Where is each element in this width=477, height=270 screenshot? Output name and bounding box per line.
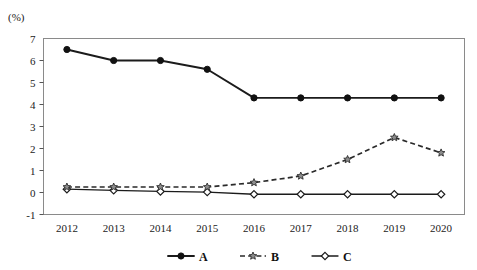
series-group	[63, 46, 445, 198]
series-a-marker	[438, 95, 444, 101]
y-axis-tick-labels: 76543210-1	[26, 33, 36, 221]
y-axis-ticks	[40, 61, 44, 215]
legend-swatch-marker-b	[249, 252, 257, 259]
x-tick-label: 2019	[383, 222, 406, 234]
y-tick-label: 4	[30, 99, 36, 111]
series-b	[63, 134, 445, 191]
series-c-marker	[391, 191, 398, 198]
legend-label-a: A	[199, 250, 208, 264]
series-a-marker	[344, 95, 350, 101]
legend-label-c: C	[343, 250, 352, 264]
x-tick-label: 2017	[290, 222, 313, 234]
y-tick-label: 7	[30, 33, 36, 45]
series-a-marker	[157, 57, 163, 63]
y-tick-label: 0	[30, 187, 36, 199]
series-b-marker	[297, 172, 305, 179]
series-c-marker	[437, 191, 444, 198]
x-tick-label: 2014	[149, 222, 172, 234]
x-tick-label: 2013	[103, 222, 126, 234]
series-a-marker	[64, 46, 70, 52]
y-tick-label: 3	[30, 121, 36, 133]
x-tick-label: 2012	[56, 222, 78, 234]
x-axis-tick-labels: 201220132014201520162017201820192020	[56, 222, 453, 234]
chart-legend: ABC	[168, 250, 352, 264]
x-tick-label: 2018	[337, 222, 360, 234]
legend-item-a[interactable]: A	[168, 250, 208, 264]
line-chart: (%) 76543210-1 2012201320142015201620172…	[0, 0, 477, 270]
legend-item-c[interactable]: C	[312, 250, 352, 264]
legend-swatch-marker-c	[321, 252, 328, 259]
series-b-marker	[157, 183, 165, 190]
legend-swatch-marker-a	[178, 253, 184, 259]
series-b-marker	[203, 183, 211, 190]
x-tick-label: 2016	[243, 222, 266, 234]
series-a-marker	[204, 66, 210, 72]
series-b-marker	[437, 149, 445, 156]
legend-label-b: B	[271, 250, 279, 264]
y-tick-label: 2	[30, 143, 36, 155]
plot-frame	[44, 39, 465, 215]
series-c-marker	[297, 191, 304, 198]
series-a-line	[67, 50, 441, 98]
series-a-marker	[251, 95, 257, 101]
series-c-marker	[344, 191, 351, 198]
y-tick-label: 1	[30, 165, 36, 177]
y-tick-label: 5	[30, 77, 36, 89]
series-a-marker	[391, 95, 397, 101]
series-a-marker	[298, 95, 304, 101]
series-a	[64, 46, 444, 101]
y-tick-label: 6	[30, 55, 36, 67]
chart-canvas: 76543210-1 20122013201420152016201720182…	[0, 0, 477, 270]
series-c-marker	[250, 191, 257, 198]
x-tick-label: 2020	[430, 222, 453, 234]
x-tick-label: 2015	[196, 222, 219, 234]
y-tick-label: -1	[26, 209, 35, 221]
series-a-marker	[111, 57, 117, 63]
series-b-marker	[250, 179, 258, 186]
legend-item-b[interactable]: B	[240, 250, 279, 264]
series-b-marker	[344, 156, 352, 163]
